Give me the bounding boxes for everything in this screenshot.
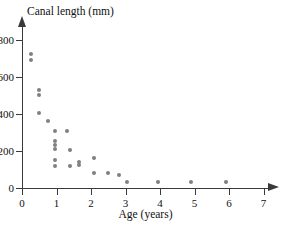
data-point — [117, 173, 121, 177]
data-point — [53, 143, 57, 147]
scatter-chart: Canal length (mm) 0200400600800 01234567… — [0, 0, 291, 225]
data-point — [92, 171, 96, 175]
data-point — [53, 164, 57, 168]
data-point — [92, 156, 96, 160]
data-point — [68, 148, 72, 152]
data-point — [53, 129, 57, 133]
data-point — [29, 58, 33, 62]
data-point — [37, 111, 41, 115]
data-point — [29, 52, 33, 56]
data-point — [224, 180, 228, 184]
data-point — [37, 93, 41, 97]
data-point — [65, 129, 69, 133]
data-point — [53, 158, 57, 162]
x-axis-title: Age (years) — [0, 208, 291, 220]
data-point — [53, 147, 57, 151]
data-point — [37, 88, 41, 92]
data-point — [77, 163, 81, 167]
data-point — [68, 164, 72, 168]
data-point — [125, 180, 129, 184]
data-point — [189, 180, 193, 184]
data-point — [156, 180, 160, 184]
plot-area — [0, 0, 291, 225]
data-point — [46, 119, 50, 123]
data-point — [106, 171, 110, 175]
